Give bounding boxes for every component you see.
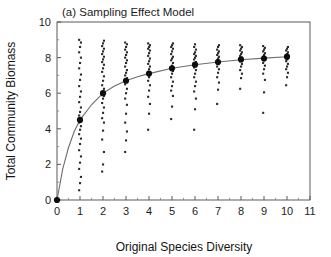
scatter-point — [287, 72, 289, 74]
y-tick-label: 10 — [39, 16, 51, 28]
scatter-point — [124, 41, 126, 43]
mean-marker — [284, 54, 290, 60]
scatter-point — [78, 51, 80, 53]
scatter-point — [102, 163, 104, 165]
scatter-point — [218, 50, 220, 52]
scatter-point — [286, 66, 288, 68]
scatter-point — [78, 168, 80, 170]
scatter-point — [218, 68, 220, 70]
scatter-point — [101, 138, 103, 140]
x-tick-label: 11 — [304, 205, 315, 217]
scatter-point — [103, 106, 105, 108]
scatter-point — [239, 44, 241, 46]
scatter-point — [101, 45, 103, 47]
scatter-point — [126, 69, 128, 71]
scatter-point — [170, 90, 172, 92]
scatter-point — [287, 63, 289, 65]
scatter-point — [126, 88, 128, 90]
scatter-point — [264, 52, 266, 54]
x-tick-label: 4 — [146, 205, 152, 217]
mean-marker — [100, 90, 106, 96]
scatter-point — [102, 50, 104, 52]
scatter-point — [263, 68, 265, 70]
scatter-point — [78, 133, 80, 135]
scatter-point — [240, 66, 242, 68]
scatter-point — [78, 114, 80, 116]
scatter-point — [149, 66, 151, 68]
scatter-point — [170, 118, 172, 120]
scatter-point — [147, 63, 149, 65]
scatter-point — [195, 55, 197, 57]
scatter-point — [80, 41, 82, 43]
mean-marker — [169, 65, 175, 71]
scatter-point — [78, 149, 80, 151]
scatter-point — [264, 47, 266, 49]
scatter-point — [148, 90, 150, 92]
mean-marker — [123, 78, 129, 84]
scatter-point — [79, 96, 81, 98]
x-tick-label: 8 — [238, 205, 244, 217]
scatter-point — [193, 129, 195, 131]
scatter-point — [263, 91, 265, 93]
scatter-point — [101, 84, 103, 86]
scatter-point — [124, 122, 126, 124]
scatter-point — [78, 85, 80, 87]
scatter-point — [287, 51, 289, 53]
figure-panel: (a) Sampling Effect Model 01234567891011… — [0, 0, 331, 257]
scatter-point — [216, 103, 218, 105]
scatter-point — [103, 122, 105, 124]
scatter-point — [102, 58, 104, 60]
scatter-point — [124, 74, 126, 76]
y-tick-label: 8 — [45, 52, 51, 64]
scatter-point — [101, 102, 103, 104]
scatter-point — [80, 138, 82, 140]
scatter-point — [172, 48, 174, 50]
scatter-point — [125, 54, 127, 56]
scatter-point — [124, 49, 126, 51]
scatter-point — [103, 88, 105, 90]
scatter-point — [193, 76, 195, 78]
mean-marker — [215, 59, 221, 65]
scatter-point — [147, 96, 149, 98]
scatter-point — [124, 57, 126, 59]
scatter-point — [79, 46, 81, 48]
scatter-point — [125, 72, 127, 74]
scatter-point — [195, 49, 197, 51]
scatter-point — [170, 53, 172, 55]
scatter-point — [102, 112, 104, 114]
scatter-point — [125, 113, 127, 115]
scatter-point — [78, 67, 80, 69]
x-tick-label: 1 — [77, 205, 83, 217]
scatter-point — [239, 88, 241, 90]
scatter-point — [80, 125, 82, 127]
scatter-point — [78, 101, 80, 103]
scatter-point — [79, 111, 81, 113]
scatter-point — [285, 68, 287, 70]
scatter-point — [102, 130, 104, 132]
scatter-point — [241, 51, 243, 53]
scatter-point — [241, 46, 243, 48]
scatter-point — [103, 56, 105, 58]
scatter-point — [79, 182, 81, 184]
scatter-point — [79, 143, 81, 145]
x-tick-label: 6 — [192, 205, 198, 217]
scatter-point — [148, 68, 150, 70]
scatter-point — [102, 98, 104, 100]
scatter-point — [125, 139, 127, 141]
scatter-point — [126, 59, 128, 61]
scatter-point — [217, 72, 219, 74]
scatter-point — [124, 151, 126, 153]
scatter-point — [172, 81, 174, 83]
scatter-point — [149, 44, 151, 46]
scatter-point — [149, 49, 151, 51]
scatter-point — [79, 129, 81, 131]
y-tick-label: 0 — [45, 194, 51, 206]
scatter-point — [126, 104, 128, 106]
scatter-point — [78, 39, 80, 41]
scatter-point — [80, 57, 82, 59]
scatter-point — [80, 155, 82, 157]
scatter-point — [264, 65, 266, 67]
scatter-point — [147, 42, 149, 44]
scatter-point — [101, 53, 103, 55]
scatter-point — [195, 81, 197, 83]
